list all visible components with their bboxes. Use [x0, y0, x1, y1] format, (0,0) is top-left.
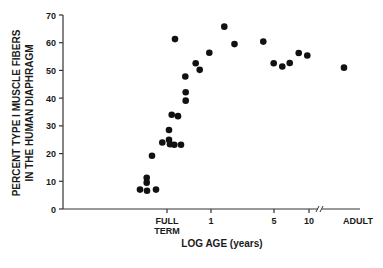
data-point [221, 23, 228, 30]
x-tick-label: FULL [156, 216, 179, 226]
data-point [178, 141, 185, 148]
data-point [149, 152, 156, 159]
data-point [286, 60, 293, 67]
data-point [341, 64, 348, 71]
data-point [182, 89, 189, 96]
x-break-label: ADULT [343, 216, 373, 226]
data-point [153, 186, 160, 193]
data-point [196, 67, 203, 74]
x-tick-label: 1 [208, 216, 213, 226]
y-tick-label: 10 [46, 177, 56, 187]
y-axis-label: PERCENT TYPE I MUSCLE FIBERS [11, 29, 22, 196]
data-point [304, 52, 311, 59]
data-point [168, 111, 175, 118]
data-point [192, 60, 199, 67]
y-tick-label: 60 [46, 38, 56, 48]
data-point [143, 174, 150, 181]
data-point [172, 36, 179, 43]
data-point [175, 113, 182, 120]
data-point [260, 38, 267, 45]
data-point [144, 187, 151, 194]
x-tick-label: 10 [304, 216, 314, 226]
data-point [231, 41, 238, 48]
x-tick-label: 5 [271, 216, 276, 226]
data-point [137, 186, 144, 193]
y-axis-label: IN THE HUMAN DIAPHRAGM [24, 44, 35, 181]
y-tick-label: 0 [51, 205, 56, 215]
data-point [171, 141, 178, 148]
data-point [182, 73, 189, 80]
x-axis-label: LOG AGE (years) [181, 238, 262, 249]
y-tick-label: 30 [46, 121, 56, 131]
y-tick-label: 20 [46, 149, 56, 159]
data-point [270, 60, 277, 67]
data-point [166, 127, 173, 134]
y-tick-label: 70 [46, 11, 56, 21]
x-tick-label: TERM [154, 226, 180, 236]
y-tick-label: 40 [46, 94, 56, 104]
data-point [295, 50, 302, 57]
data-point [206, 49, 213, 56]
data-point [159, 139, 166, 146]
y-tick-label: 50 [46, 66, 56, 76]
data-point [279, 63, 286, 70]
data-point [182, 97, 189, 104]
scatter-chart: 010203040506070FULLTERM1510ADULTLOG AGE … [0, 0, 383, 268]
